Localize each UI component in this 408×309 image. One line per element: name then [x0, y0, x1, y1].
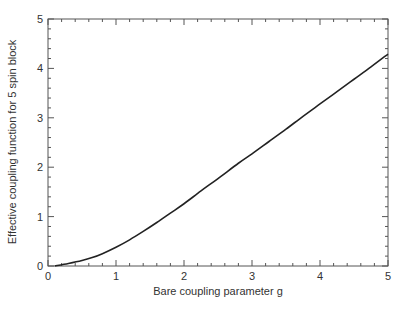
- y-axis-tick-labels: 012345: [37, 13, 43, 272]
- plot-frame: [48, 19, 388, 266]
- plot-border: [48, 19, 388, 266]
- x-tick-label: 4: [317, 270, 323, 282]
- y-tick-label: 2: [37, 161, 43, 173]
- x-axis-tick-labels: 012345: [45, 270, 391, 282]
- y-axis-label: Effective coupling function for 5 spin b…: [6, 39, 18, 244]
- x-tick-label: 3: [249, 270, 255, 282]
- x-tick-label: 2: [181, 270, 187, 282]
- y-tick-label: 0: [37, 260, 43, 272]
- y-tick-label: 4: [37, 62, 43, 74]
- axis-ticks: [48, 19, 388, 266]
- y-tick-label: 3: [37, 112, 43, 124]
- x-tick-label: 1: [113, 270, 119, 282]
- series-line: [55, 54, 388, 266]
- x-tick-label: 0: [45, 270, 51, 282]
- data-series: [55, 54, 388, 266]
- line-chart: 012345 012345 Bare coupling parameter g …: [0, 0, 408, 309]
- x-tick-label: 5: [385, 270, 391, 282]
- y-tick-label: 5: [37, 13, 43, 25]
- x-axis-label: Bare coupling parameter g: [153, 285, 283, 297]
- y-tick-label: 1: [37, 211, 43, 223]
